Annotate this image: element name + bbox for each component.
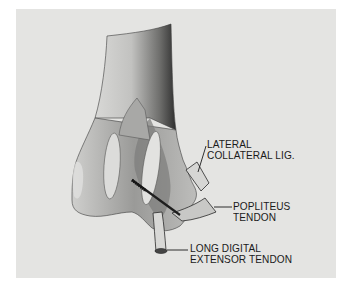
leader-lateral-collateral xyxy=(198,146,206,172)
label-popliteus-tendon: POPLITEUS TENDON xyxy=(233,201,290,223)
label-line: TENDON xyxy=(233,212,290,223)
label-line: COLLATERAL LIG. xyxy=(207,150,295,161)
label-line: EXTENSOR TENDON xyxy=(190,254,292,265)
femur-illustration xyxy=(0,0,349,293)
label-long-digital-extensor-tendon: LONG DIGITAL EXTENSOR TENDON xyxy=(190,243,292,265)
label-lateral-collateral-lig: LATERAL COLLATERAL LIG. xyxy=(207,139,295,161)
